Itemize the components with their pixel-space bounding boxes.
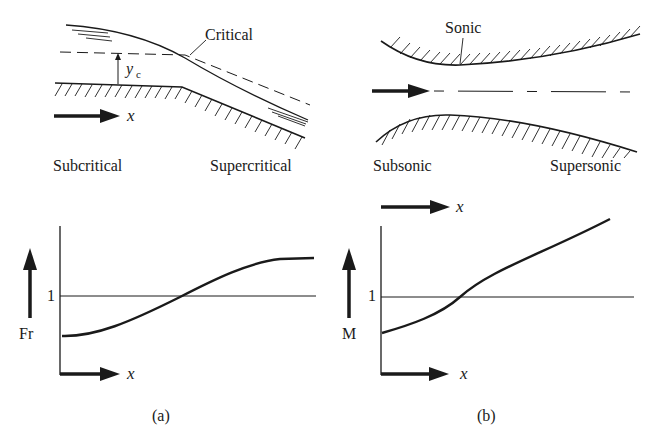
nozzle-x-label: x <box>455 197 464 216</box>
mach-unity-tick: 1 <box>368 287 376 304</box>
mach-x-label: x <box>459 364 468 383</box>
critical-label: Critical <box>205 26 254 43</box>
froude-y-label: Fr <box>19 325 34 342</box>
critical-leader-line <box>190 40 206 55</box>
froude-y-arrowhead <box>23 248 37 270</box>
nozzle-flow-arrowhead <box>408 84 430 98</box>
nozzle-x-arrowhead <box>430 200 450 214</box>
froude-curve <box>62 258 314 336</box>
lower-wall-hatching <box>382 115 630 158</box>
subsonic-label: Subsonic <box>373 157 432 174</box>
mach-x-arrowhead <box>429 367 449 381</box>
flow-axis-label: x <box>126 106 135 125</box>
critical-depth-arrowhead <box>115 53 121 60</box>
flow-arrowhead <box>100 109 120 123</box>
water-surface-marks-left <box>72 30 112 41</box>
panel-a-label: (a) <box>152 407 170 425</box>
critical-depth-subscript: c <box>136 68 141 80</box>
mach-y-arrowhead <box>342 248 356 270</box>
panel-b-label: (b) <box>477 407 496 425</box>
subcritical-label: Subcritical <box>53 157 123 174</box>
mach-curve <box>382 219 610 333</box>
sonic-leader-line <box>460 38 463 64</box>
froude-unity-tick: 1 <box>47 287 55 304</box>
critical-depth-line <box>60 52 310 105</box>
diagram-canvas: Critical y c <box>0 0 657 444</box>
mach-y-label: M <box>342 325 356 342</box>
nozzle-diagram: Sonic <box>372 19 640 216</box>
supercritical-label: Supercritical <box>210 157 292 175</box>
supersonic-label: Supersonic <box>550 157 621 175</box>
upper-wall-hatching <box>390 26 640 65</box>
free-surface-curve <box>66 25 308 120</box>
froude-plot: x Fr 1 (a) <box>19 226 316 425</box>
nozzle-centerline <box>434 91 638 92</box>
mach-plot: x M 1 (b) <box>342 219 634 425</box>
channel-diagram: Critical y c <box>53 25 310 175</box>
froude-x-arrowhead <box>100 367 120 381</box>
critical-depth-label: y <box>124 60 134 78</box>
sonic-label: Sonic <box>445 19 481 36</box>
froude-x-label: x <box>126 364 135 383</box>
